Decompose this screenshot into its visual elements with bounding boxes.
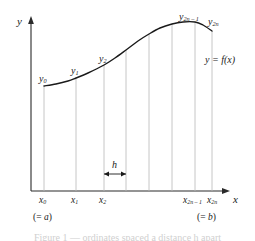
curve-equation-label: y = f(x) [205,55,235,65]
endpoint-note-variable: a [44,212,49,222]
x-axis-arrowhead [222,188,230,194]
subscript: 2n – 1 [187,199,202,205]
subscript: 2 [103,199,106,205]
abscissa-label-2: x2 [99,196,106,206]
subscript: 2n [211,199,217,205]
subscript: 2n [212,20,218,27]
step-arrow-left [104,172,109,177]
x-axis-label: x [233,194,238,205]
step-arrow-right [121,172,126,177]
figure-caption: Figure 1 — ordinates spaced a distance h… [0,232,255,241]
abscissa-label-1: x1 [71,196,78,206]
ordinate-label-2: y2 [99,54,107,65]
endpoint-note-variable: b [208,212,213,222]
function-curve [44,22,212,86]
endpoint-note-1: (= b) [197,213,216,223]
subscript: 0 [43,199,46,205]
ordinate-label-0: y0 [39,74,47,85]
y-axis-label: y [17,16,22,27]
subscript: 0 [43,77,46,84]
ordinate-label-3: y2n – 1 [179,12,199,23]
endpoint-note-0: (= a) [33,213,52,223]
y-axis-group [28,16,34,191]
abscissa-label-3: x2n – 1 [183,196,202,206]
abscissa-label-4: x2n [207,196,217,206]
subscript: 1 [75,69,78,76]
ordinate-lines-group [44,22,212,191]
subscript: 2 [103,57,106,64]
x-axis-group [31,188,230,194]
subscript: 1 [75,199,78,205]
subscript: 2n – 1 [183,15,198,22]
y-axis-arrowhead [28,16,34,24]
abscissa-label-0: x0 [39,196,46,206]
ordinate-label-1: y1 [71,66,79,77]
simpsons-rule-figure: y x y = f(x) y0y1y2y2n – 1y2n x0x1x2x2n … [0,0,255,241]
ordinate-label-4: y2n [208,17,219,28]
step-size-marker [104,172,126,177]
step-size-label: h [112,160,117,170]
